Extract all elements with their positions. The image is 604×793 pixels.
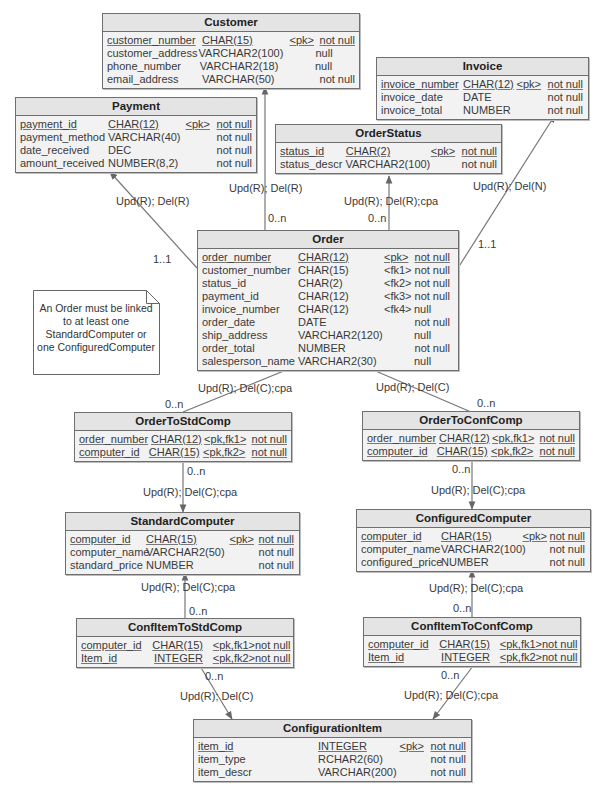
entity-ordertoconfcomp[interactable]: OrderToConfComp order_numberCHAR(12)<pk,… <box>362 411 580 461</box>
entity-confitemtostdcomp[interactable]: ConfItemToStdComp computer_idCHAR(15)<pk… <box>76 618 294 668</box>
entity-title: ConfigurationItem <box>194 720 471 738</box>
column-row: computer_nameVARCHAR2(100)not null <box>361 543 586 556</box>
entity-payment[interactable]: Payment payment_idCHAR(12)<pk>not null p… <box>15 97 257 173</box>
column-row: order_numberCHAR(12)<pk>not null <box>202 251 454 264</box>
entity-title: Invoice <box>377 58 588 76</box>
column-row: computer_idCHAR(15)<pk,fk1>not null <box>368 638 576 651</box>
entity-customer[interactable]: Customer customer_numberCHAR(15)<pk>not … <box>102 13 360 89</box>
column-row: invoice_totalNUMBERnot null <box>381 104 584 117</box>
entity-invoice[interactable]: Invoice invoice_numberCHAR(12)<pk>not nu… <box>376 57 589 120</box>
column-row: Item_idINTEGER<pk,fk2>not null <box>368 651 576 664</box>
column-row: computer_idCHAR(15)<pk>not null <box>361 530 586 543</box>
rule-label: Upd(R); Del(C) <box>376 381 449 393</box>
rule-label: Upd(R); Del(C);cpa <box>143 486 237 498</box>
column-row: payment_idCHAR(12)<fk3>not null <box>202 290 454 303</box>
column-row: customer_numberCHAR(15)<pk>not null <box>107 34 355 47</box>
column-row: status_idCHAR(2)<pk>not null <box>280 145 497 158</box>
note-line: to at least one <box>33 315 159 328</box>
constraint-note: An Order must be linked to at least one … <box>33 290 159 374</box>
cardinality-label: 0..n <box>268 212 286 224</box>
column-row: computer_idCHAR(15)<pk,fk2>not null <box>79 446 287 459</box>
column-row: order_dateDATEnot null <box>202 316 454 329</box>
entity-confitemtoconfcomp[interactable]: ConfItemToConfComp computer_idCHAR(15)<p… <box>363 617 581 667</box>
rule-label: Upd(R); Del(R) <box>116 195 189 207</box>
cardinality-label: 1..1 <box>478 238 496 250</box>
rule-label: Upd(R); Del(C);cpa <box>141 581 235 593</box>
entity-order[interactable]: Order order_numberCHAR(12)<pk>not null c… <box>197 230 459 371</box>
column-row: order_totalNUMBERnot null <box>202 342 454 355</box>
note-line: An Order must be linked <box>33 302 159 315</box>
column-row: standard_priceNUMBERnot null <box>70 559 295 572</box>
cardinality-label: 0..n <box>187 465 205 477</box>
column-row: invoice_dateDATEnot null <box>381 91 584 104</box>
column-row: payment_methodVARCHAR(40)not null <box>20 131 252 144</box>
entity-standardcomputer[interactable]: StandardComputer computer_idCHAR(15)<pk>… <box>65 512 300 575</box>
rule-label: Upd(R); Del(R) <box>229 182 302 194</box>
column-row: ship_addressVARCHAR2(120)null <box>202 329 454 342</box>
entity-title: OrderStatus <box>276 125 501 143</box>
cardinality-label: 1..1 <box>153 253 171 265</box>
rule-label: Upd(R); Del(C);cpa <box>198 382 292 394</box>
column-row: order_numberCHAR(12)<pk,fk1>not null <box>79 433 287 446</box>
column-row: order_numberCHAR(12)<pk,fk1>not null <box>367 432 575 445</box>
entity-title: ConfItemToConfComp <box>364 618 580 636</box>
note-line: StandardComputer or <box>33 328 159 341</box>
rule-label: Upd(R); Del(R);cpa <box>344 195 438 207</box>
column-row: date_receivedDECnot null <box>20 144 252 157</box>
entity-configuredcomputer[interactable]: ConfiguredComputer computer_idCHAR(15)<p… <box>356 509 591 572</box>
rule-label: Upd(R); Del(C);cpa <box>404 689 498 701</box>
column-row: amount_receivedNUMBER(8,2)not null <box>20 157 252 170</box>
entity-title: OrderToConfComp <box>363 412 579 430</box>
column-row: computer_nameVARCHAR2(50)not null <box>70 546 295 559</box>
entity-title: ConfiguredComputer <box>357 510 590 528</box>
entity-title: ConfItemToStdComp <box>77 619 293 637</box>
cardinality-label: 0..n <box>368 212 386 224</box>
rule-label: Upd(R); Del(C) <box>180 690 253 702</box>
cardinality-label: 0..n <box>205 670 223 682</box>
column-row: item_idINTEGER<pk>not null <box>198 740 467 753</box>
cardinality-label: 0..n <box>441 669 459 681</box>
cardinality-label: 0..n <box>477 397 495 409</box>
entity-ordertostdcomp[interactable]: OrderToStdComp order_numberCHAR(12)<pk,f… <box>74 412 292 462</box>
column-row: salesperson_nameVARCHAR2(30)null <box>202 355 454 368</box>
column-row: configured_priceNUMBERnot null <box>361 556 586 569</box>
column-row: invoice_numberCHAR(12)<pk>not null <box>381 78 584 91</box>
entity-title: StandardComputer <box>66 513 299 531</box>
column-row: invoice_numberCHAR(12)<fk4>null <box>202 303 454 316</box>
column-row: Item_idINTEGER<pk,fk2>not null <box>81 652 289 665</box>
cardinality-label: 0..n <box>453 602 471 614</box>
rule-label: Upd(R); Del(C);cpa <box>429 582 523 594</box>
column-row: customer_addressVARCHAR2(100)null <box>107 47 355 60</box>
rule-label: Upd(R); Del(N) <box>473 180 546 192</box>
column-row: customer_numberCHAR(15)<fk1>not null <box>202 264 454 277</box>
entity-title: Customer <box>103 14 359 32</box>
column-row: status_descrVARCHAR2(100)not null <box>280 158 497 171</box>
cardinality-label: 0..n <box>452 463 470 475</box>
column-row: item_descrVARCHAR(200)not null <box>198 766 467 779</box>
column-row: computer_idCHAR(15)<pk,fk2>not null <box>367 445 575 458</box>
column-row: phone_numberVARCHAR2(18)null <box>107 60 355 73</box>
entity-title: Order <box>198 231 458 249</box>
column-row: status_idCHAR(2)<fk2>not null <box>202 277 454 290</box>
column-row: computer_idCHAR(15)<pk,fk1>not null <box>81 639 289 652</box>
entity-configurationitem[interactable]: ConfigurationItem item_idINTEGER<pk>not … <box>193 719 472 782</box>
rule-label: Upd(R); Del(C);cpa <box>431 484 525 496</box>
entity-title: OrderToStdComp <box>75 413 291 431</box>
note-line: one ConfiguredComputer <box>33 341 159 354</box>
entity-title: Payment <box>16 98 256 116</box>
column-row: computer_idCHAR(15)<pk>not null <box>70 533 295 546</box>
column-row: email_addressVARCHAR(50)not null <box>107 73 355 86</box>
cardinality-label: 0..n <box>189 605 207 617</box>
entity-orderstatus[interactable]: OrderStatus status_idCHAR(2)<pk>not null… <box>275 124 502 174</box>
cardinality-label: 0..n <box>165 398 183 410</box>
column-row: item_typeRCHAR2(60)not null <box>198 753 467 766</box>
column-row: payment_idCHAR(12)<pk>not null <box>20 118 252 131</box>
